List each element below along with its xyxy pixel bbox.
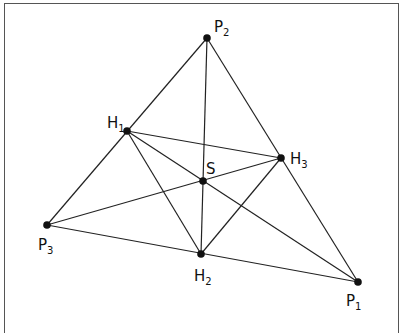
label-p3: P3	[38, 236, 53, 256]
point-s	[199, 177, 207, 185]
point-p1	[354, 278, 362, 286]
label-h2: H2	[194, 267, 212, 287]
segment-h1-p1	[127, 131, 358, 282]
point-h2	[197, 250, 205, 258]
label-s: S	[206, 160, 216, 178]
segment-h1-h2	[127, 131, 201, 254]
label-subscript: 1	[355, 301, 361, 312]
label-subscript: 3	[47, 245, 53, 256]
point-p3	[43, 221, 51, 229]
point-p2	[203, 34, 211, 42]
point-h3	[277, 154, 285, 162]
segments	[47, 38, 358, 282]
points	[43, 34, 362, 286]
label-h1: H1	[107, 114, 125, 134]
label-subscript: 2	[205, 276, 211, 287]
label-subscript: 1	[118, 123, 124, 134]
point-labels: P1P2P3H1H2H3S	[38, 18, 361, 312]
label-h3: H3	[290, 150, 308, 170]
segment-p2-h2	[201, 38, 207, 254]
label-p1: P1	[346, 292, 361, 312]
segment-p3-h3	[47, 158, 281, 225]
label-subscript: 3	[301, 159, 307, 170]
label-subscript: 2	[223, 27, 229, 38]
label-p2: P2	[214, 18, 229, 38]
